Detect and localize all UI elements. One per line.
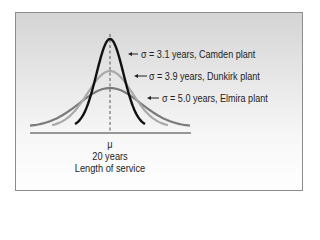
arrow-camden <box>128 52 138 56</box>
mean-symbol: μ <box>57 138 163 150</box>
label-elmira: σ = 5.0 years, Elmira plant <box>162 92 268 104</box>
label-dunkirk: σ = 3.9 years, Dunkirk plant <box>149 70 260 82</box>
label-camden: σ = 3.1 years, Camden plant <box>141 48 255 60</box>
x-axis-label: Length of service <box>57 162 163 174</box>
arrow-dunkirk <box>134 74 147 78</box>
arrow-elmira <box>147 96 159 100</box>
mean-value-label: 20 years <box>57 150 163 162</box>
